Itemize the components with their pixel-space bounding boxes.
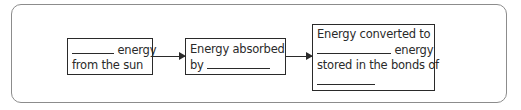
arrow-right-icon	[286, 56, 312, 57]
fill-in-blank	[207, 57, 270, 69]
flow-box-sun-energy: energy from the sun	[67, 38, 153, 75]
fill-in-blank	[317, 42, 391, 54]
flow-box-energy-converted: Energy converted to energy stored in the…	[312, 24, 435, 91]
box-1-text-energy: energy	[114, 43, 156, 57]
box-3-text-energy: energy	[391, 43, 433, 57]
box-1-line-1: energy	[72, 42, 148, 58]
box-3-line-3: stored in the bonds of	[317, 58, 430, 73]
box-3-line-1: Energy converted to	[317, 27, 430, 42]
arrow-right-icon	[153, 56, 185, 57]
box-1-line-2: from the sun	[72, 58, 148, 73]
box-3-line-2: energy	[317, 42, 430, 58]
fill-in-blank	[72, 42, 114, 54]
box-2-line-2: by	[190, 57, 281, 73]
box-2-text-by: by	[190, 58, 207, 72]
box-2-line-1: Energy absorbed	[190, 42, 281, 57]
box-3-line-4	[317, 73, 430, 89]
flow-box-energy-absorbed: Energy absorbed by	[185, 38, 286, 75]
fill-in-blank	[317, 73, 375, 85]
